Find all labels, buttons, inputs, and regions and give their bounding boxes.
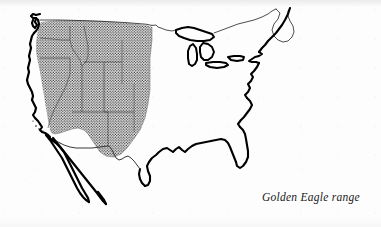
figure-caption: Golden Eagle range: [262, 191, 360, 203]
figure-plate: Golden Eagle range: [0, 0, 381, 227]
scan-edge-band-bottom: [0, 218, 381, 227]
great-lakes: [176, 27, 244, 68]
us-coastline: [139, 8, 290, 186]
